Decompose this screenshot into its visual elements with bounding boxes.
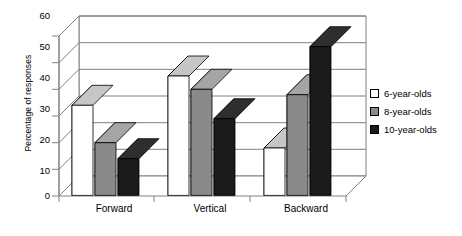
x-tick-label-vertical: Vertical (162, 203, 258, 214)
legend-label: 6-year-olds (384, 89, 432, 99)
bar-chart: Percentage of responses 60 50 40 30 20 1… (0, 0, 462, 236)
legend-item-8-year-olds: 8-year-olds (370, 104, 437, 119)
x-axis-ticks (59, 196, 346, 202)
legend-swatch-black (370, 125, 379, 134)
x-tick-label-backward: Backward (258, 203, 354, 214)
legend-label: 10-year-olds (384, 125, 437, 135)
legend-swatch-white (370, 89, 379, 98)
x-tick-label-forward: Forward (66, 203, 162, 214)
legend-item-6-year-olds: 6-year-olds (370, 86, 437, 101)
legend-swatch-gray (370, 107, 379, 116)
legend-label: 8-year-olds (384, 107, 432, 117)
chart-legend: 6-year-olds 8-year-olds 10-year-olds (370, 86, 437, 140)
legend-item-10-year-olds: 10-year-olds (370, 122, 437, 137)
